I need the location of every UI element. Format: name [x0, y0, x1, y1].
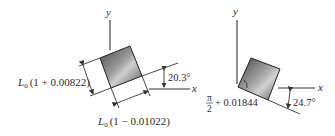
right-angle-denominator: 2 — [207, 104, 212, 114]
right-strained-element — [238, 58, 280, 100]
left-ext-line-1b — [90, 88, 111, 96]
right-x-label: x — [317, 81, 323, 93]
right-figure: y x 24.7° π 2 + 0.01844 — [206, 5, 323, 114]
left-side-label-1: L0(1 + 0.00822) — [17, 76, 90, 90]
left-strained-element — [100, 46, 142, 88]
left-ext-line-1a — [79, 58, 100, 66]
left-figure: y x 20.3° L0(1 + 0.00822) L0(1 − 0.01022… — [17, 6, 197, 129]
left-side-label-2: L0(1 − 0.01022) — [97, 115, 170, 129]
left-y-label: y — [105, 6, 111, 18]
right-y-label: y — [232, 5, 238, 17]
right-angle-numerator: π — [207, 93, 212, 103]
left-dim-arrow-2 — [117, 91, 148, 103]
strain-diagram: y x 20.3° L0(1 + 0.00822) L0(1 − 0.01022… — [0, 0, 335, 136]
right-angle-arrow — [288, 91, 290, 108]
left-ext-line-2a — [111, 88, 119, 108]
left-rotation-angle: 20.3° — [168, 72, 191, 83]
diagram-svg: y x 20.3° L0(1 + 0.00822) L0(1 − 0.01022… — [0, 0, 335, 136]
right-rotation-angle: 24.7° — [293, 97, 316, 108]
right-angle-suffix: + 0.01844 — [215, 97, 258, 108]
left-x-label: x — [191, 82, 197, 94]
